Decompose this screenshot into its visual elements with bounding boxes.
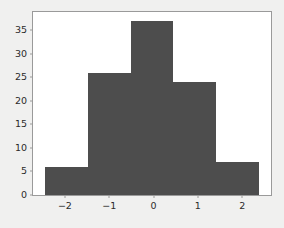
x-tick-label: 0: [151, 195, 157, 211]
plot-axes: 05101520253035 −2−1012: [32, 11, 272, 196]
y-tick-label: 0: [21, 190, 33, 200]
x-tick-label: −1: [102, 195, 116, 211]
y-tick-label: 20: [15, 96, 33, 106]
histogram-bar: [88, 73, 131, 195]
histogram-figure: 05101520253035 −2−1012: [0, 0, 284, 228]
x-tick-label: −2: [58, 195, 72, 211]
y-tick-label: 35: [15, 26, 33, 36]
y-tick-label: 15: [15, 120, 33, 130]
x-tick-label: 1: [195, 195, 201, 211]
histogram-bar: [45, 167, 88, 195]
x-tick-label: 2: [239, 195, 245, 211]
histogram-bar: [131, 21, 174, 195]
histogram-bar: [216, 162, 259, 195]
plot-area: [33, 12, 271, 195]
histogram-bar: [173, 82, 216, 195]
y-tick-label: 5: [21, 167, 33, 177]
y-tick-label: 10: [15, 143, 33, 153]
y-tick-label: 30: [15, 49, 33, 59]
y-tick-label: 25: [15, 73, 33, 83]
